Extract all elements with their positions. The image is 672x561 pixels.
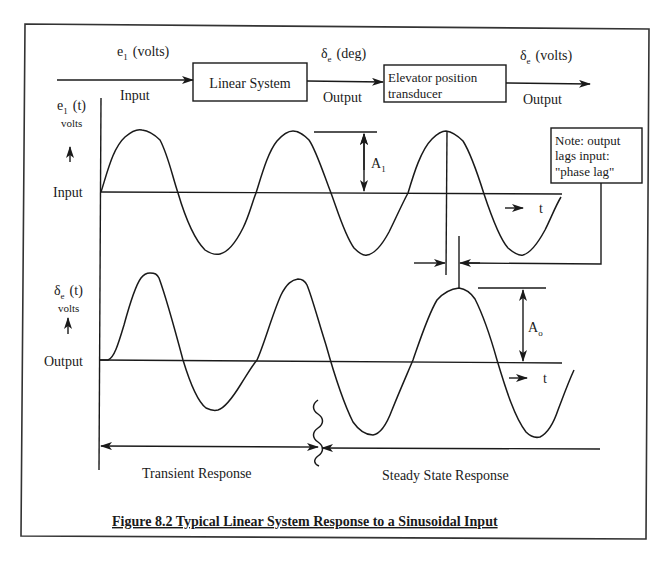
input-label: Input — [120, 88, 150, 103]
output-plot: δe(t) volts Output t Ao — [44, 273, 574, 437]
input-signal-label: e1(volts) — [117, 44, 170, 62]
input-plot: e1(t) volts Input t A1 — [53, 98, 562, 288]
vertical-axis — [99, 98, 101, 470]
transducer-label-line2: transducer — [388, 86, 443, 101]
note-leader-line — [466, 183, 601, 264]
block-diagram: e1(volts) Input Linear System δe(deg) Ou… — [57, 44, 590, 107]
output-label: Output — [523, 92, 562, 107]
steady-state-response-label: Steady State Response — [382, 468, 509, 483]
output-time-label: t — [543, 371, 547, 386]
note-line3: "phase lag" — [555, 164, 614, 179]
mid-arrow — [307, 81, 383, 82]
transient-left-arrow-icon — [101, 446, 300, 447]
note-line1: Note: output — [555, 133, 621, 148]
output-axis-unit: volts — [58, 302, 79, 314]
output-baseline-label: Output — [44, 354, 83, 369]
phase-lag-note: Note: output lags input: "phase lag" — [414, 128, 642, 264]
input-axis-unit: volts — [61, 117, 82, 129]
output-signal-label: δe(volts) — [520, 48, 572, 66]
note-line2: lags input: — [555, 148, 610, 163]
output-axis-label: δe(t) — [54, 283, 83, 301]
region-divider-wavy-line — [314, 400, 323, 466]
output-arrow — [506, 83, 590, 84]
figure-caption: Figure 8.2 Typical Linear System Respons… — [112, 514, 498, 529]
steady-state-arrow-icon — [322, 448, 600, 449]
linear-system-response-diagram: e1(volts) Input Linear System δe(deg) Ou… — [0, 0, 672, 561]
transducer-label-line1: Elevator position — [388, 70, 478, 85]
response-regions: Transient Response Steady State Response — [101, 400, 600, 483]
transient-response-label: Transient Response — [142, 466, 252, 481]
ao-label: Ao — [528, 320, 543, 338]
input-baseline-label: Input — [53, 185, 83, 200]
output-response-wave — [100, 273, 574, 437]
input-axis-label: e1(t) — [57, 98, 86, 116]
a1-label: A1 — [371, 156, 386, 174]
linear-system-label: Linear System — [209, 76, 290, 91]
input-time-label: t — [539, 201, 543, 216]
input-peak-marker-line — [446, 131, 447, 275]
mid-output-label: Output — [323, 90, 362, 105]
mid-signal-label: δe(deg) — [321, 46, 366, 64]
